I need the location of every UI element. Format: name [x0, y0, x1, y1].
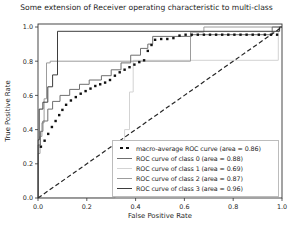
x-tick-label: 0.8 — [228, 203, 238, 211]
roc-figure: Some extension of Receiver operating cha… — [0, 0, 293, 228]
legend-item-class-0: ROC curve of class 0 (area = 0.88) — [117, 153, 274, 163]
x-tick-label: 0.0 — [33, 203, 43, 211]
legend-label: macro-average ROC curve (area = 0.86) — [136, 145, 261, 152]
legend-item-class-1: ROC curve of class 1 (area = 0.69) — [117, 163, 274, 173]
y-axis-label: True Positive Rate — [4, 66, 14, 156]
y-tick-label: 0.8 — [23, 58, 33, 66]
y-tick-label: 1.0 — [23, 23, 33, 31]
x-axis-label: False Positive Rate — [27, 212, 293, 220]
x-tick-label: 0.4 — [131, 203, 141, 211]
y-tick-label: 0.4 — [23, 126, 33, 134]
x-tick-label: 1.0 — [277, 203, 287, 211]
x-tick-label: 0.2 — [82, 203, 92, 211]
line-legend-icon — [117, 178, 132, 179]
legend-label: ROC curve of class 1 (area = 0.69) — [136, 165, 243, 172]
x-tick-label: 0.6 — [179, 203, 189, 211]
y-tick-label: 0.0 — [23, 194, 33, 202]
legend-item-class-3: ROC curve of class 3 (area = 0.96) — [117, 184, 274, 194]
macro-average-curve — [40, 34, 279, 148]
y-tick-label: 0.2 — [23, 160, 33, 168]
legend-item-macro-average: macro-average ROC curve (area = 0.86) — [117, 143, 274, 153]
dotted-squares-legend-icon — [117, 147, 132, 150]
legend-label: ROC curve of class 2 (area = 0.87) — [136, 175, 243, 182]
line-legend-icon — [117, 158, 132, 159]
legend-label: ROC curve of class 3 (area = 0.96) — [136, 185, 243, 192]
line-legend-icon — [117, 188, 132, 189]
legend-label: ROC curve of class 0 (area = 0.88) — [136, 155, 243, 162]
legend-item-class-2: ROC curve of class 2 (area = 0.87) — [117, 174, 274, 184]
y-tick-label: 0.6 — [23, 92, 33, 100]
legend: macro-average ROC curve (area = 0.86) RO… — [112, 140, 279, 197]
line-legend-icon — [117, 168, 132, 169]
